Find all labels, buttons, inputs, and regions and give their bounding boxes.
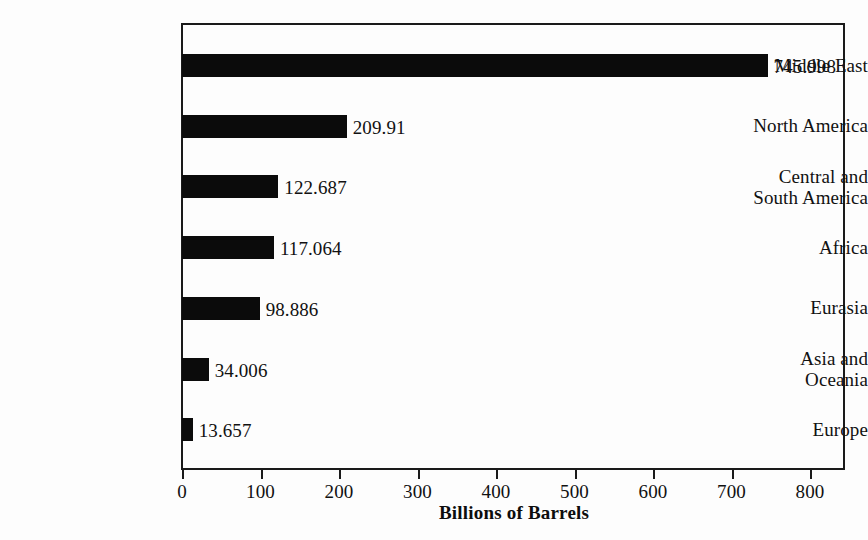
x-axis-tick-mark	[732, 470, 734, 479]
x-axis-tick-label: 0	[152, 481, 212, 503]
x-axis-tick-label: 700	[702, 481, 762, 503]
x-axis-tick-label: 300	[388, 481, 448, 503]
x-axis-tick-mark	[418, 470, 420, 479]
bar	[182, 175, 278, 198]
x-axis-tick-mark	[653, 470, 655, 479]
x-axis-tick-mark	[182, 470, 184, 479]
category-label: Central and South America	[696, 166, 868, 208]
bar-chart: Middle EastNorth AmericaCentral and Sout…	[0, 0, 868, 540]
x-axis-tick-mark	[575, 470, 577, 479]
bar	[182, 358, 209, 381]
category-label: North America	[696, 115, 868, 136]
x-axis-tick-mark	[810, 470, 812, 479]
bar-value-label: 745.998	[774, 55, 836, 78]
bar	[182, 54, 768, 77]
x-axis-tick-mark	[496, 470, 498, 479]
category-label: Asia and Oceania	[696, 348, 868, 390]
bar	[182, 236, 274, 259]
category-label: Europe	[696, 419, 868, 440]
x-axis-title: Billions of Barrels	[0, 502, 868, 524]
bar-value-label: 117.064	[280, 237, 342, 260]
x-axis-tick-mark	[261, 470, 263, 479]
bar-value-label: 98.886	[266, 298, 319, 321]
x-axis-tick-label: 600	[623, 481, 683, 503]
x-axis-title-text: Billions of Barrels	[439, 502, 589, 524]
x-axis-tick-label: 400	[466, 481, 526, 503]
bar-value-label: 122.687	[284, 176, 346, 199]
bar	[182, 297, 260, 320]
x-axis-tick-mark	[339, 470, 341, 479]
bar	[182, 418, 193, 441]
x-axis-tick-label: 500	[545, 481, 605, 503]
x-axis-tick-label: 200	[309, 481, 369, 503]
bar-value-label: 34.006	[215, 359, 268, 382]
category-label: Eurasia	[696, 297, 868, 318]
x-axis-tick-label: 100	[231, 481, 291, 503]
bar-value-label: 13.657	[199, 419, 252, 442]
bar-value-label: 209.91	[353, 116, 406, 139]
bar	[182, 115, 347, 138]
category-label: Africa	[696, 237, 868, 258]
x-axis-tick-label: 800	[780, 481, 840, 503]
